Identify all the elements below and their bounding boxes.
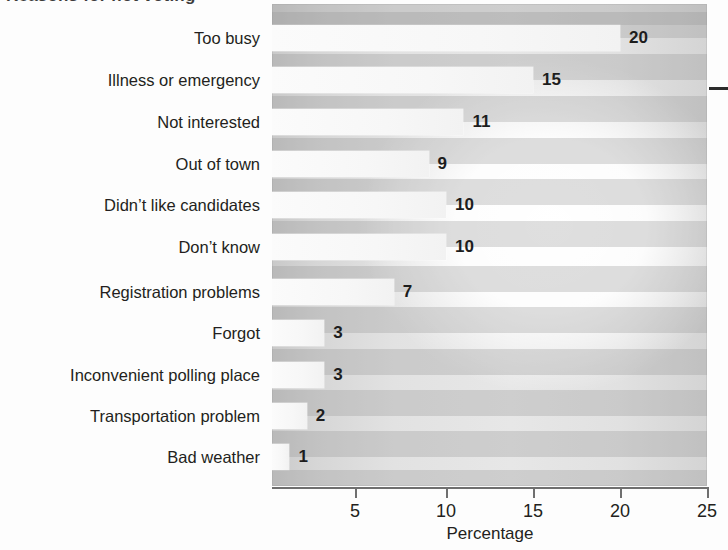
- category-label: Inconvenient polling place: [2, 367, 260, 384]
- bar: [272, 25, 620, 51]
- bar-value-label: 7: [403, 282, 412, 302]
- x-axis-tick: [446, 487, 448, 498]
- plot-area: 2015119101073321: [272, 4, 707, 486]
- category-axis-labels: Too busyIllness or emergencyNot interest…: [0, 0, 260, 550]
- bar-value-label: 9: [438, 154, 447, 174]
- category-label: Too busy: [2, 30, 260, 47]
- bar: [272, 320, 324, 346]
- bar: [272, 67, 533, 93]
- category-label: Not interested: [2, 114, 260, 131]
- plot-band: [272, 431, 707, 457]
- bar-value-label: 3: [333, 365, 342, 385]
- bar-chart-figure: Reasons for not voting Too busyIllness o…: [0, 0, 728, 550]
- bar: [272, 234, 446, 260]
- x-axis-tick-label: 15: [523, 501, 543, 522]
- x-axis-title: Percentage: [0, 524, 728, 544]
- x-axis-tick-label: 20: [610, 501, 630, 522]
- plot-band: [272, 4, 707, 25]
- category-label: Don’t know: [2, 239, 260, 256]
- category-label: Registration problems: [2, 284, 260, 301]
- bar: [272, 192, 446, 218]
- bar: [272, 362, 324, 388]
- bar-value-label: 11: [472, 112, 490, 132]
- bar-value-label: 10: [455, 237, 474, 257]
- category-label: Illness or emergency: [2, 72, 260, 89]
- bar-value-label: 20: [629, 28, 648, 48]
- bar: [272, 151, 429, 177]
- plot-band: [272, 470, 707, 486]
- x-axis-line: [272, 487, 707, 489]
- bar-value-label: 1: [298, 447, 307, 467]
- x-axis-tick: [533, 487, 535, 498]
- x-axis-tick: [707, 487, 709, 498]
- bar-value-label: 3: [333, 323, 342, 343]
- plot-band: [272, 390, 707, 416]
- x-axis-tick-label: 5: [350, 501, 360, 522]
- bar: [272, 279, 394, 305]
- category-label: Forgot: [2, 325, 260, 342]
- bar: [272, 403, 307, 429]
- category-label: Bad weather: [2, 449, 260, 466]
- category-label: Out of town: [2, 156, 260, 173]
- category-label: Transportation problem: [2, 408, 260, 425]
- x-axis-tick-label: 10: [436, 501, 456, 522]
- x-axis-tick: [355, 487, 357, 498]
- bar-value-label: 10: [455, 195, 474, 215]
- x-axis-tick-label: 25: [697, 501, 717, 522]
- bar: [272, 109, 463, 135]
- right-edge-rule-mark: [709, 87, 728, 90]
- x-axis-tick: [620, 487, 622, 498]
- bar-value-label: 15: [542, 70, 561, 90]
- bar-value-label: 2: [316, 406, 325, 426]
- bar: [272, 444, 289, 470]
- category-label: Didn’t like candidates: [2, 197, 260, 214]
